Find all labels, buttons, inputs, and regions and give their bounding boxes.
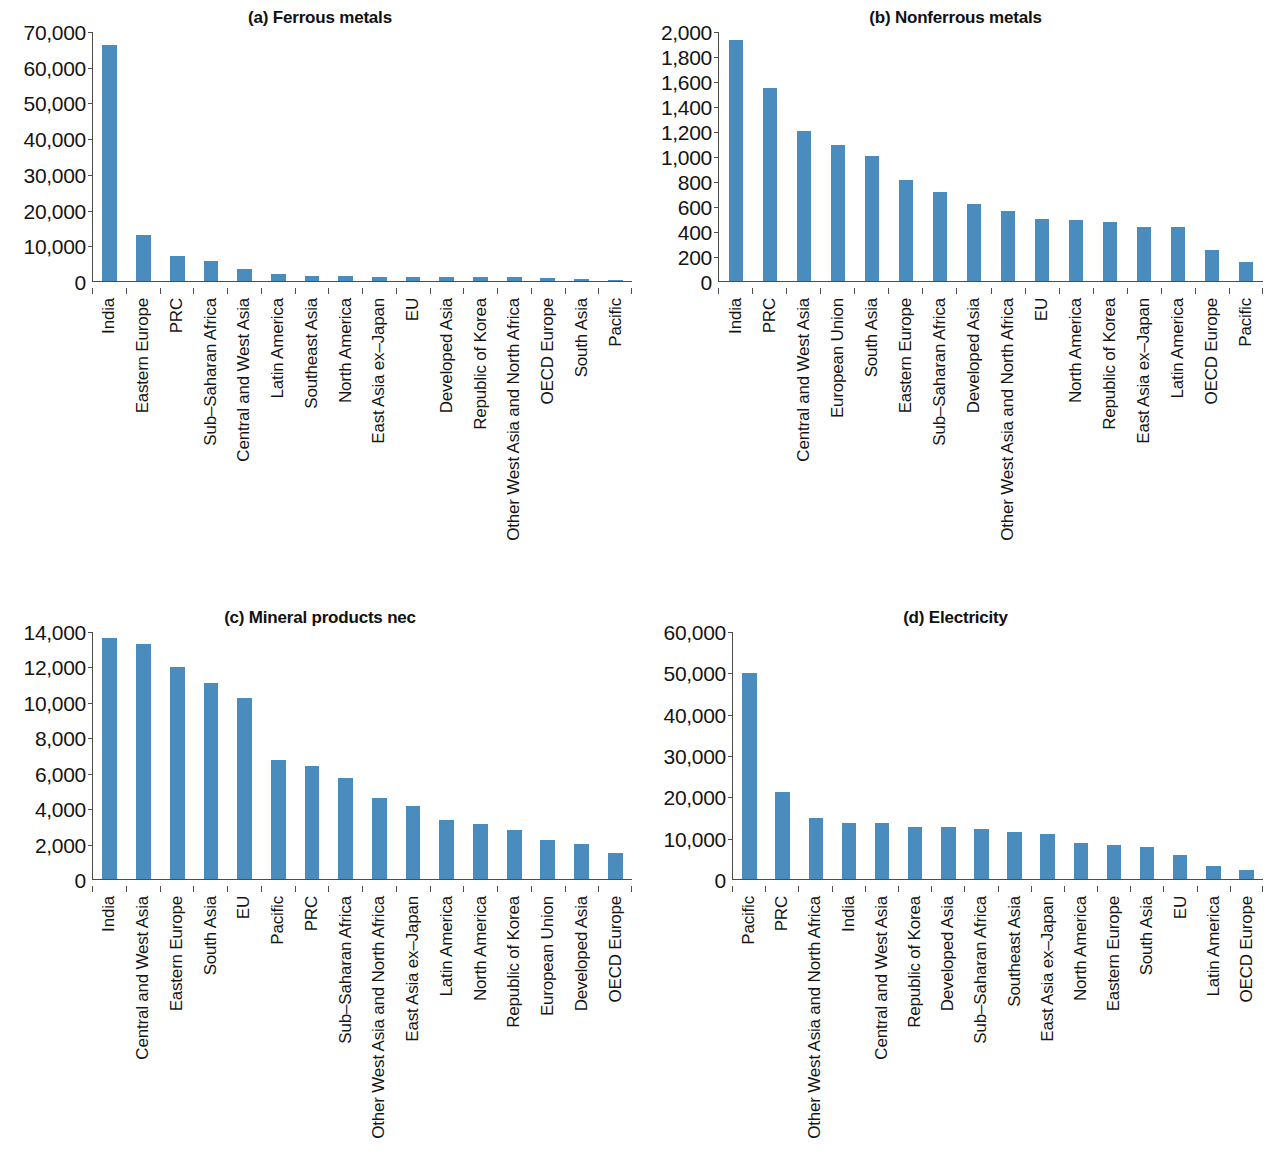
bar-slot — [430, 632, 464, 879]
plot-box — [92, 632, 632, 880]
bar — [775, 792, 790, 879]
bar — [372, 798, 387, 879]
x-tick-mark — [1064, 886, 1097, 892]
x-label-slot: Other West Asia and North Africa — [991, 298, 1025, 541]
bar-slot — [719, 32, 753, 281]
x-tick-mark — [531, 886, 565, 892]
x-label-slot: Latin America — [1161, 298, 1195, 398]
x-axis-ticks — [92, 886, 632, 892]
bar-slot — [598, 632, 632, 879]
bar — [974, 829, 989, 879]
bar-slot — [1131, 632, 1164, 879]
bar-slot — [1164, 632, 1197, 879]
x-tick-label: Other West Asia and North Africa — [370, 896, 387, 1139]
x-label-slot: Eastern Europe — [126, 298, 160, 413]
x-tick-label: Sub–Saharan Africa — [972, 896, 989, 1044]
y-tick-label: 0 — [715, 870, 726, 891]
bar — [831, 145, 846, 281]
x-tick-label: Central and West Asia — [235, 298, 252, 462]
bar-slot — [766, 632, 799, 879]
x-label-slot: Other West Asia and North Africa — [798, 896, 831, 1139]
panel-d-title: (d) Electricity — [640, 600, 1271, 628]
x-tick-mark — [160, 288, 194, 294]
x-tick-label: North America — [1072, 896, 1089, 1001]
plot-box — [718, 32, 1263, 282]
x-tick-mark — [991, 288, 1025, 294]
bar — [574, 279, 589, 281]
plot-box — [92, 32, 632, 282]
x-tick-label: Eastern Europe — [1105, 896, 1122, 1011]
x-label-slot: East Asia ex–Japan — [396, 896, 430, 1042]
x-tick-mark — [1127, 288, 1161, 294]
x-tick-label: South Asia — [863, 298, 880, 377]
bar — [136, 235, 151, 281]
x-tick-label: Sub–Saharan Africa — [202, 298, 219, 446]
x-label-slot: Republic of Korea — [497, 896, 531, 1028]
x-tick-mark — [1097, 886, 1130, 892]
x-label-slot: PRC — [160, 298, 194, 333]
bar — [729, 40, 744, 281]
x-label-slot: Latin America — [261, 298, 295, 398]
y-tick-label: 70,000 — [24, 22, 86, 43]
x-tick-label: Republic of Korea — [1101, 298, 1118, 430]
bar — [763, 88, 778, 281]
y-tick-label: 0 — [75, 870, 86, 891]
x-tick-label: Other West Asia and North Africa — [999, 298, 1016, 541]
plot-box — [732, 632, 1263, 880]
x-tick-mark — [786, 288, 820, 294]
bar-slot — [832, 632, 865, 879]
bar-slot — [1064, 632, 1097, 879]
bar — [204, 683, 219, 879]
x-tick-mark — [998, 886, 1031, 892]
y-tick-label: 600 — [678, 197, 712, 218]
x-tick-mark — [227, 288, 261, 294]
x-label-slot: South Asia — [1130, 896, 1163, 975]
x-label-slot: Pacific — [732, 896, 765, 945]
x-tick-label: Pacific — [607, 298, 624, 347]
bar-slot — [93, 632, 127, 879]
x-tick-mark — [898, 886, 931, 892]
x-tick-mark — [798, 886, 831, 892]
bar — [1007, 832, 1022, 879]
x-label-slot: South Asia — [854, 298, 888, 377]
x-tick-label: EU — [235, 896, 252, 919]
y-tick-label: 400 — [678, 222, 712, 243]
x-label-slot: Other West Asia and North Africa — [362, 896, 396, 1139]
x-tick-mark — [752, 288, 786, 294]
x-tick-mark — [765, 886, 798, 892]
x-tick-label: Southeast Asia — [303, 298, 320, 409]
x-label-slot: Sub–Saharan Africa — [193, 298, 227, 446]
x-label-slot: South Asia — [565, 298, 599, 377]
y-tick-label: 1,400 — [661, 97, 712, 118]
bar — [1040, 834, 1055, 879]
bar — [608, 853, 623, 879]
x-label-slot: Developed Asia — [931, 896, 964, 1011]
bar-series — [733, 632, 1263, 879]
x-axis-labels: IndiaCentral and West AsiaEastern Europe… — [92, 896, 632, 1139]
x-label-slot: India — [718, 298, 752, 334]
x-tick-mark — [261, 288, 295, 294]
x-axis-ticks — [92, 288, 632, 294]
y-tick-label: 200 — [678, 247, 712, 268]
x-label-slot: India — [92, 298, 126, 334]
panel-c-title: (c) Mineral products nec — [0, 600, 640, 628]
bar-slot — [1229, 32, 1263, 281]
x-label-slot: Central and West Asia — [227, 298, 261, 462]
x-label-slot: Sub–Saharan Africa — [328, 896, 362, 1044]
bar — [271, 274, 286, 281]
x-tick-label: East Asia ex–Japan — [370, 298, 387, 444]
x-label-slot: North America — [1059, 298, 1093, 403]
y-tick-label: 1,800 — [661, 47, 712, 68]
x-label-slot: Republic of Korea — [1093, 298, 1127, 430]
bar-slot — [464, 632, 498, 879]
x-tick-mark — [531, 288, 565, 294]
x-tick-label: Developed Asia — [939, 896, 956, 1011]
x-label-slot: Eastern Europe — [1097, 896, 1130, 1011]
x-tick-mark — [362, 886, 396, 892]
x-tick-mark — [865, 886, 898, 892]
x-axis-labels: PacificPRCOther West Asia and North Afri… — [732, 896, 1263, 1139]
y-tick-label: 12,000 — [24, 657, 86, 678]
x-tick-mark — [430, 886, 464, 892]
x-tick-label: PRC — [303, 896, 320, 931]
y-tick-label: 0 — [701, 272, 712, 293]
